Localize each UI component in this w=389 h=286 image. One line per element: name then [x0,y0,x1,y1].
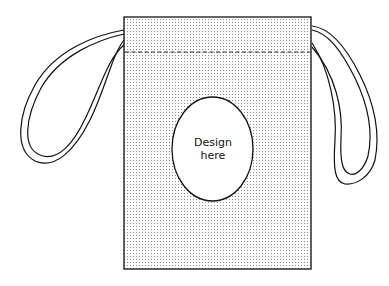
design-here-label-line2: here [172,149,254,162]
design-here-label-line1: Design [172,136,254,149]
right-strap [312,26,377,184]
left-strap [21,30,124,163]
